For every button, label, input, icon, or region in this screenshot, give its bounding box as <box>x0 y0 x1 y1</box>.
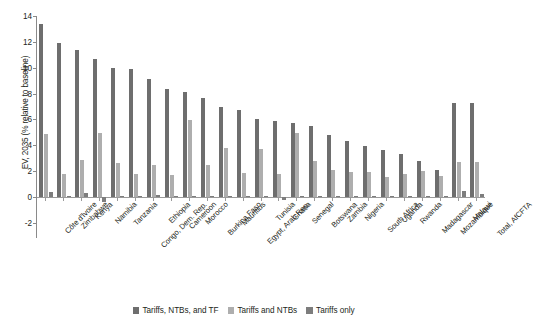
bar <box>138 196 142 197</box>
bar <box>264 196 268 197</box>
bar-group <box>381 16 394 197</box>
bar <box>228 196 232 197</box>
bar <box>170 175 174 197</box>
bar <box>134 174 138 197</box>
bar-group <box>39 16 52 197</box>
bar-group <box>93 16 106 197</box>
bar <box>165 89 169 197</box>
bar <box>421 171 425 197</box>
bar <box>300 196 304 197</box>
bar-group <box>452 16 465 197</box>
bar-group <box>129 16 142 197</box>
bar <box>219 107 223 197</box>
legend-item: Tariffs and NTBs <box>228 306 298 315</box>
x-axis-tick-label: Malawi <box>471 200 494 223</box>
bar <box>62 174 66 197</box>
bar <box>381 150 385 197</box>
bar <box>345 141 349 197</box>
bar <box>367 172 371 197</box>
bar <box>75 50 79 197</box>
bar <box>192 196 196 197</box>
bar <box>111 68 115 197</box>
legend-label: Tariffs, NTBs, and TF <box>143 306 219 315</box>
bar <box>120 196 124 197</box>
bar-group <box>291 16 304 197</box>
legend-swatch-icon <box>133 307 140 314</box>
bar <box>291 123 295 197</box>
y-axis-tick-label: 0 <box>12 193 32 202</box>
bar <box>372 196 376 197</box>
bar-group <box>183 16 196 197</box>
bar-group <box>237 16 250 197</box>
bar <box>363 146 367 197</box>
bar <box>457 162 461 197</box>
legend-swatch-icon <box>228 307 235 314</box>
y-axis-tick-label: 4 <box>12 141 32 150</box>
bar <box>470 103 474 197</box>
legend-item: Tariffs, NTBs, and TF <box>133 306 219 315</box>
bar <box>255 119 259 197</box>
bar <box>93 59 97 197</box>
bar <box>210 196 214 197</box>
bar <box>116 163 120 197</box>
y-axis-tick-label: 10 <box>12 63 32 72</box>
legend-swatch-icon <box>306 307 313 314</box>
y-axis-tick-label: 14 <box>12 12 32 21</box>
bar <box>174 196 178 197</box>
bar <box>224 148 228 197</box>
bar <box>354 196 358 197</box>
bar-group <box>399 16 412 197</box>
bar-group <box>363 16 376 197</box>
bar <box>417 161 421 197</box>
chart-legend: Tariffs, NTBs, and TFTariffs and NTBsTar… <box>0 306 487 315</box>
bar <box>399 154 403 197</box>
bar <box>295 133 299 197</box>
bar <box>439 176 443 197</box>
bar <box>67 196 71 197</box>
bar <box>309 126 313 197</box>
y-axis-tick-label: 2 <box>12 167 32 176</box>
bar <box>452 103 456 197</box>
bar <box>49 192 53 197</box>
legend-label: Tariffs only <box>316 306 354 315</box>
y-axis-tick-label: 8 <box>12 89 32 98</box>
bar <box>188 120 192 197</box>
bar <box>336 196 340 197</box>
bar <box>403 174 407 197</box>
bar <box>327 135 331 197</box>
x-axis-tick-label: Total, AfCFTA <box>495 200 533 238</box>
bar <box>152 165 156 197</box>
bar <box>147 79 151 197</box>
x-axis-labels: Côte d'IvoireZimbabweKenyaNamibiaTanzani… <box>36 200 487 300</box>
bar <box>39 24 43 197</box>
bar <box>390 196 394 197</box>
bar-group <box>470 16 483 197</box>
bar-group <box>435 16 448 197</box>
y-axis-tick-label: -2 <box>12 218 32 227</box>
bar <box>475 162 479 197</box>
bar <box>183 92 187 197</box>
bar <box>426 196 430 197</box>
bar-group <box>57 16 70 197</box>
bar-group <box>165 16 178 197</box>
bar-group <box>327 16 340 197</box>
bar <box>444 196 448 197</box>
bar <box>435 170 439 197</box>
bar <box>246 196 250 197</box>
bar <box>156 195 160 197</box>
bar <box>237 110 241 197</box>
bar-group <box>201 16 214 197</box>
bar <box>318 196 322 197</box>
bar-group <box>111 16 124 197</box>
bar <box>408 196 412 197</box>
bar <box>385 177 389 197</box>
bar <box>84 193 88 197</box>
bar-group <box>273 16 286 197</box>
bar-group <box>219 16 232 197</box>
bar <box>80 160 84 197</box>
bar-group <box>417 16 430 197</box>
bar <box>98 133 102 197</box>
legend-item: Tariffs only <box>306 306 354 315</box>
bar <box>242 173 246 197</box>
